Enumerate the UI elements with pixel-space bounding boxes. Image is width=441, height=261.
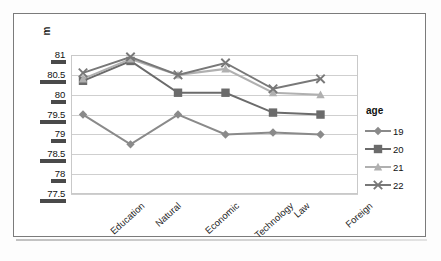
legend-item-label: 21 bbox=[391, 162, 404, 173]
legend-items: 19202122 bbox=[365, 122, 435, 194]
legend-item-label: 22 bbox=[391, 180, 404, 191]
data-point bbox=[316, 110, 324, 118]
scan-shadow bbox=[16, 239, 427, 241]
y-axis-tick-label: 77.5 bbox=[30, 188, 66, 200]
legend-item-19[interactable]: 19 bbox=[365, 122, 435, 140]
legend-title: age bbox=[365, 105, 435, 116]
legend-item-21[interactable]: 21 bbox=[365, 158, 435, 176]
data-point bbox=[269, 108, 277, 116]
series-line bbox=[83, 59, 321, 95]
legend-marker-square-icon bbox=[365, 142, 391, 156]
legend: age 19202122 bbox=[365, 105, 435, 194]
legend-item-label: 20 bbox=[391, 144, 404, 155]
data-point bbox=[174, 89, 182, 97]
legend-item-22[interactable]: 22 bbox=[365, 176, 435, 194]
legend-marker-diamond-icon bbox=[365, 124, 391, 138]
legend-item-20[interactable]: 20 bbox=[365, 140, 435, 158]
legend-marker-cross-icon bbox=[365, 178, 391, 192]
gridline bbox=[71, 194, 358, 195]
y-axis-tick-label: 78 bbox=[30, 168, 66, 180]
data-point bbox=[221, 89, 229, 97]
legend-marker-triangle-icon bbox=[365, 160, 391, 174]
y-axis-tick-label: 80.5 bbox=[30, 69, 66, 81]
plot-area bbox=[71, 55, 358, 194]
scanned-page: m 8180.58079.57978.57877.5 EducationNatu… bbox=[0, 0, 441, 261]
data-point bbox=[221, 130, 229, 138]
series-line bbox=[83, 115, 321, 145]
legend-item-label: 19 bbox=[391, 126, 404, 137]
data-point bbox=[316, 130, 324, 138]
series-layer bbox=[71, 55, 358, 194]
y-axis-tick-label: 78.5 bbox=[30, 148, 66, 160]
series-19 bbox=[79, 110, 325, 148]
y-axis-title: m bbox=[35, 20, 59, 42]
data-point bbox=[269, 128, 277, 136]
y-axis-tick-label: 80 bbox=[30, 89, 66, 101]
y-axis-tick-label: 81 bbox=[30, 49, 66, 61]
y-axis-tick-label: 79 bbox=[30, 128, 66, 140]
y-axis-tick-label: 79.5 bbox=[30, 109, 66, 121]
